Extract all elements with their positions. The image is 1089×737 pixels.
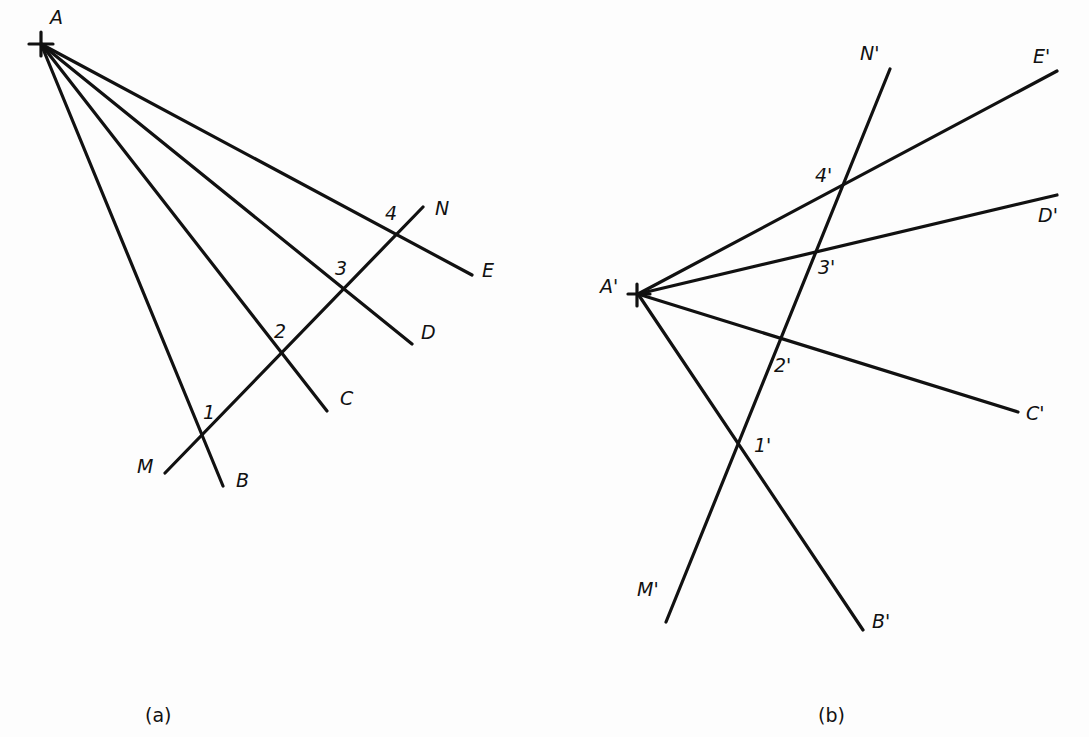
label-transversal-m: M <box>137 455 153 477</box>
label-point-1: 1 <box>203 401 215 423</box>
ray-ae <box>41 44 472 275</box>
ray-a-prime-b-prime <box>638 294 863 630</box>
label-point-2: 2 <box>274 320 286 342</box>
ray-a-prime-e-prime <box>638 71 1057 294</box>
projective-pencil-diagram: A B C D E M N 1 2 3 4 A' N' E' D' C' B' … <box>0 0 1089 737</box>
ray-ac <box>41 44 327 411</box>
label-transversal-n-prime: N' <box>860 42 879 64</box>
panel-a: A B C D E M N 1 2 3 4 <box>29 6 494 491</box>
ray-ad <box>41 44 412 344</box>
label-ray-c: C <box>340 387 354 409</box>
label-ray-c-prime: C' <box>1026 402 1045 424</box>
ray-a-prime-d-prime <box>638 195 1057 294</box>
label-ray-b-prime: B' <box>872 610 890 632</box>
label-ray-d: D <box>421 321 436 343</box>
caption-b: (b) <box>818 704 845 726</box>
label-ray-b: B <box>236 469 249 491</box>
label-ray-d-prime: D' <box>1038 204 1058 226</box>
label-ray-e: E <box>482 259 494 281</box>
panel-b: A' N' E' D' C' B' M' 4' 3' 2' 1' <box>598 42 1058 632</box>
label-point-4-prime: 4' <box>815 164 832 186</box>
label-point-3: 3 <box>335 257 347 279</box>
label-point-4: 4 <box>385 202 397 224</box>
caption-a: (a) <box>145 704 171 726</box>
label-point-1-prime: 1' <box>754 434 771 456</box>
label-point-3-prime: 3' <box>818 256 835 278</box>
label-ray-e-prime: E' <box>1033 45 1050 67</box>
label-point-2-prime: 2' <box>774 354 791 376</box>
ray-a-prime-c-prime <box>638 294 1018 412</box>
label-transversal-m-prime: M' <box>637 578 659 600</box>
ray-ab <box>41 44 223 486</box>
label-transversal-n: N <box>435 197 449 219</box>
transversal-m-prime-n-prime <box>666 69 890 622</box>
label-vertex-a-prime: A' <box>598 275 618 297</box>
label-vertex-a: A <box>48 6 63 28</box>
